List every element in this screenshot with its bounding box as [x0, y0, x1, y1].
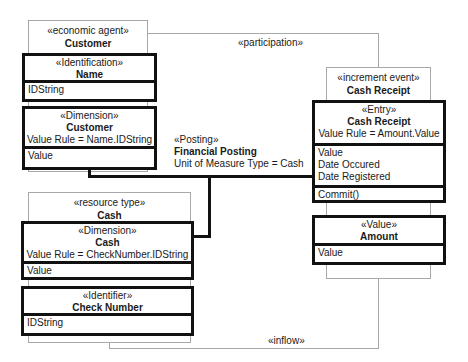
entry-stereotype: «Entry»: [315, 104, 443, 116]
inflow-label: «inflow»: [268, 335, 305, 347]
entry-rule: Value Rule = Amount.Value: [315, 128, 443, 140]
posting-line-cash: [191, 235, 211, 238]
attribute: Value: [318, 147, 440, 159]
participation-label: «participation»: [238, 37, 303, 49]
identifier-attributes: IDString: [24, 316, 191, 330]
customer-dimension-name: Customer: [25, 122, 154, 134]
value-attributes: Value: [315, 246, 443, 260]
customer-dimension-rule: Value Rule = Name.IDString: [25, 134, 154, 146]
entry-operations: Commit(): [315, 185, 443, 202]
customer-dimension-attributes: Value: [25, 149, 154, 163]
attribute: IDString: [28, 84, 151, 96]
identifier-name: Check Number: [24, 302, 191, 314]
identification-attributes: IDString: [25, 83, 154, 97]
posting-rule: Unit of Measure Type = Cash: [174, 158, 304, 170]
identification-name: Name: [25, 69, 154, 81]
attribute: Value: [28, 150, 151, 162]
customer-dimension-header: «Dimension» Customer Value Rule = Name.I…: [25, 109, 154, 149]
entry-name: Cash Receipt: [315, 116, 443, 128]
identifier-stereotype: «Identifier»: [24, 290, 191, 302]
cash-receipt-stereotype: «increment event»: [327, 71, 430, 84]
attribute: Value: [27, 265, 188, 277]
customer-dimension-box[interactable]: «Dimension» Customer Value Rule = Name.I…: [22, 106, 157, 170]
cash-dimension-stereotype: «Dimension»: [24, 225, 191, 237]
identification-name-box[interactable]: «Identification» Name IDString: [22, 53, 157, 102]
inflow-line-h: [109, 348, 379, 349]
entry-attributes: Value Date Occured Date Registered: [315, 146, 443, 185]
cash-dimension-attributes: Value: [24, 264, 191, 278]
value-header: «Value» Amount: [315, 218, 443, 246]
attribute: Date Occured: [318, 159, 440, 171]
posting-label[interactable]: «Posting» Financial Posting Unit of Meas…: [174, 134, 304, 170]
cash-receipt-name: Cash Receipt: [327, 84, 430, 97]
posting-line-down: [208, 175, 211, 238]
entry-cash-receipt-box[interactable]: «Entry» Cash Receipt Value Rule = Amount…: [312, 100, 446, 203]
participation-line-v: [378, 33, 379, 68]
cash-receipt-event-header: «increment event» Cash Receipt: [327, 68, 430, 97]
posting-line-main: [88, 175, 314, 178]
attribute: Value: [318, 247, 440, 259]
identification-header: «Identification» Name: [25, 56, 154, 83]
cash-dimension-box[interactable]: «Dimension» Cash Value Rule = CheckNumbe…: [21, 221, 194, 280]
entry-header: «Entry» Cash Receipt Value Rule = Amount…: [315, 103, 443, 146]
posting-name: Financial Posting: [174, 146, 304, 158]
cash-dimension-name: Cash: [24, 237, 191, 249]
cash-dimension-rule: Value Rule = CheckNumber.IDString: [24, 249, 191, 261]
identifier-check-number-box[interactable]: «Identifier» Check Number IDString: [21, 286, 194, 336]
operation: Commit(): [318, 189, 440, 201]
inflow-line-v2: [378, 278, 379, 349]
posting-stereotype: «Posting»: [174, 134, 304, 146]
cash-dimension-header: «Dimension» Cash Value Rule = CheckNumbe…: [24, 224, 191, 264]
customer-name: Customer: [29, 37, 147, 50]
attribute: Date Registered: [318, 171, 440, 183]
cash-stereotype: «resource type»: [29, 196, 190, 209]
customer-dimension-stereotype: «Dimension»: [25, 110, 154, 122]
customer-stereotype: «economic agent»: [29, 24, 147, 37]
attribute: IDString: [27, 317, 188, 329]
customer-agent-header: «economic agent» Customer: [29, 21, 147, 50]
cash-resource-header: «resource type» Cash: [29, 193, 190, 222]
value-amount-box[interactable]: «Value» Amount Value: [312, 215, 446, 265]
participation-line-h: [147, 33, 379, 34]
identifier-header: «Identifier» Check Number: [24, 289, 191, 316]
value-name: Amount: [315, 231, 443, 243]
value-stereotype: «Value»: [315, 219, 443, 231]
identification-stereotype: «Identification»: [25, 57, 154, 69]
